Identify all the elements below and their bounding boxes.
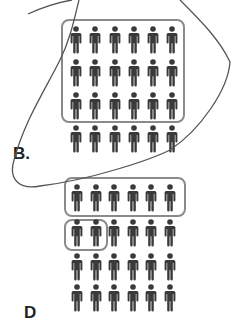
hand-drawn-annotation-curve: [0, 0, 233, 315]
